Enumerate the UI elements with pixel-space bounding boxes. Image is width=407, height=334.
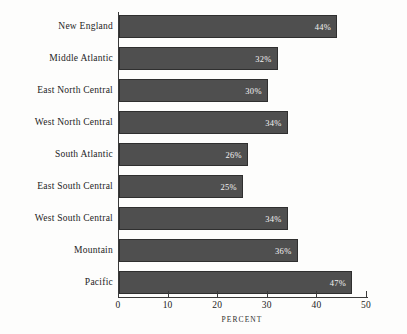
bar-value-label: 47% [330,278,346,288]
bar: 34% [119,111,288,134]
category-label: Middle Atlantic [0,53,113,64]
bar-value-label: 34% [265,118,281,128]
x-axis-tick [366,291,367,297]
x-axis-tick [118,291,119,297]
category-label: South Atlantic [0,149,113,160]
bar-value-label: 25% [221,182,237,192]
category-label: West North Central [0,117,113,128]
category-label: Pacific [0,277,113,288]
x-axis-tick-label: 50 [361,300,371,310]
bar-value-label: 44% [315,22,331,32]
x-axis-title: PERCENT [221,315,262,324]
x-axis-tick [168,291,169,297]
x-axis-tick-label: 20 [212,300,222,310]
category-label: East North Central [0,85,113,96]
bar-chart: New EnglandMiddle AtlanticEast North Cen… [0,0,407,334]
bar: 34% [119,207,288,230]
bar-value-label: 36% [275,246,291,256]
x-axis-tick-label: 0 [116,300,121,310]
bar-value-label: 32% [255,54,271,64]
x-axis-tick-label: 40 [311,300,321,310]
bar-value-label: 26% [225,150,241,160]
x-axis-line [118,297,368,298]
category-label: West South Central [0,213,113,224]
bar: 25% [119,175,243,198]
x-axis-tick [267,291,268,297]
x-axis-tick-label: 10 [163,300,173,310]
bar-value-label: 30% [245,86,261,96]
category-label: New England [0,21,113,32]
x-axis-tick-label: 30 [262,300,272,310]
category-label: East South Central [0,181,113,192]
bar: 44% [119,15,337,38]
x-axis-tick [217,291,218,297]
plot-area: 44%32%30%34%26%25%34%36%47% 01020304050 … [118,0,407,300]
category-label: Mountain [0,245,113,256]
bar-value-label: 34% [265,214,281,224]
category-axis-labels: New EnglandMiddle AtlanticEast North Cen… [0,0,113,300]
bar: 30% [119,79,268,102]
bar: 36% [119,239,298,262]
x-axis-tick [316,291,317,297]
bar: 26% [119,143,248,166]
bar: 32% [119,47,278,70]
